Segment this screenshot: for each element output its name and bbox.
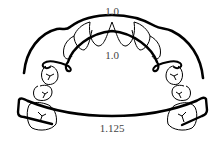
teeth xyxy=(27,22,197,130)
tooth-fissure xyxy=(178,112,186,122)
tooth-fissure xyxy=(170,74,178,80)
inner-wire-label: 1.0 xyxy=(105,50,119,61)
tooth-canine xyxy=(63,36,74,59)
outer-wire-label: 1.0 xyxy=(105,6,119,17)
tooth-fissure xyxy=(42,92,48,98)
tooth-premolar xyxy=(42,66,59,85)
tooth-fissure xyxy=(46,74,54,80)
tooth-premolar xyxy=(166,66,183,85)
lower-wire-label: 1.125 xyxy=(100,123,125,134)
tooth-fissure xyxy=(176,92,182,98)
